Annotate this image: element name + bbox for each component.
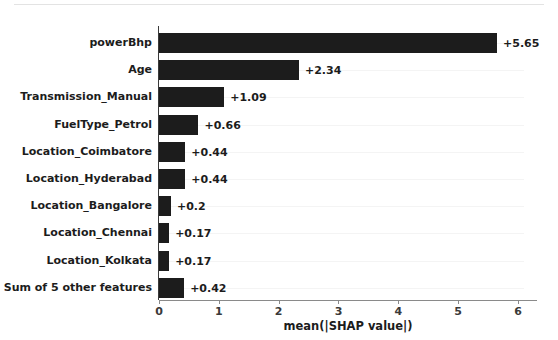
x-axis-tick-label: 3 <box>335 305 343 318</box>
x-axis-tick-label: 4 <box>394 305 402 318</box>
bar[interactable] <box>159 223 169 243</box>
bar[interactable] <box>159 169 185 189</box>
x-axis-tick-label: 1 <box>215 305 223 318</box>
x-axis-tick-label: 0 <box>155 305 163 318</box>
x-axis-tick-mark <box>458 300 459 304</box>
y-axis-tick-label: powerBhp <box>0 33 152 53</box>
x-axis-tick-mark <box>159 300 160 304</box>
bar-row[interactable]: +2.34 <box>159 60 524 80</box>
x-axis-tick-mark <box>338 300 339 304</box>
y-axis-tick-label: Age <box>0 60 152 80</box>
bar-row[interactable]: +0.42 <box>159 278 524 298</box>
bar[interactable] <box>159 87 224 107</box>
x-axis-tick-mark <box>518 300 519 304</box>
bar[interactable] <box>159 142 185 162</box>
x-axis-tick-mark <box>279 300 280 304</box>
bar-value-label: +0.2 <box>177 200 206 213</box>
bar[interactable] <box>159 115 198 135</box>
y-axis-tick-label: Sum of 5 other features <box>0 278 152 298</box>
y-axis-tick-label: Location_Hyderabad <box>0 169 152 189</box>
y-axis-tick-label: Location_Bangalore <box>0 196 152 216</box>
x-axis-title: mean(|SHAP value|) <box>0 319 558 333</box>
bar[interactable] <box>159 60 299 80</box>
top-divider-rule <box>14 4 544 5</box>
x-axis-tick-label: 2 <box>275 305 283 318</box>
y-axis-tick-label: Transmission_Manual <box>0 87 152 107</box>
bar-value-label: +0.44 <box>191 173 227 186</box>
bar-value-label: +1.09 <box>230 91 266 104</box>
bar-value-label: +2.34 <box>305 64 341 77</box>
bar[interactable] <box>159 196 171 216</box>
bar-row[interactable]: +0.17 <box>159 251 524 271</box>
y-axis-tick-label: FuelType_Petrol <box>0 115 152 135</box>
bar-row[interactable]: +0.44 <box>159 142 524 162</box>
x-axis-tick-mark <box>398 300 399 304</box>
bar-value-label: +0.17 <box>175 254 211 267</box>
x-axis-spine <box>159 300 537 301</box>
y-axis-tick-label: Location_Kolkata <box>0 251 152 271</box>
bar-row[interactable]: +0.17 <box>159 223 524 243</box>
y-axis-tick-label: Location_Chennai <box>0 223 152 243</box>
bar-row[interactable]: +5.65 <box>159 33 524 53</box>
bar-value-label: +0.66 <box>204 118 240 131</box>
bar[interactable] <box>159 33 497 53</box>
bar-value-label: +0.44 <box>191 145 227 158</box>
bar-value-label: +0.42 <box>190 281 226 294</box>
y-axis-tick-label: Location_Coimbatore <box>0 142 152 162</box>
bar[interactable] <box>159 251 169 271</box>
bar-value-label: +5.65 <box>503 37 539 50</box>
bar-row[interactable]: +1.09 <box>159 87 524 107</box>
plot-area: +5.65+2.34+1.09+0.66+0.44+0.44+0.2+0.17+… <box>159 26 524 300</box>
bar-row[interactable]: +0.44 <box>159 169 524 189</box>
bar[interactable] <box>159 278 184 298</box>
x-axis-title-text: mean(|SHAP value|) <box>283 319 412 333</box>
bar-row[interactable]: +0.2 <box>159 196 524 216</box>
x-axis-tick-label: 5 <box>454 305 462 318</box>
shap-bar-chart-figure: +5.65+2.34+1.09+0.66+0.44+0.44+0.2+0.17+… <box>0 0 558 340</box>
bar-row[interactable]: +0.66 <box>159 115 524 135</box>
x-axis-tick-mark <box>219 300 220 304</box>
bar-value-label: +0.17 <box>175 227 211 240</box>
x-axis-tick-label: 6 <box>514 305 522 318</box>
